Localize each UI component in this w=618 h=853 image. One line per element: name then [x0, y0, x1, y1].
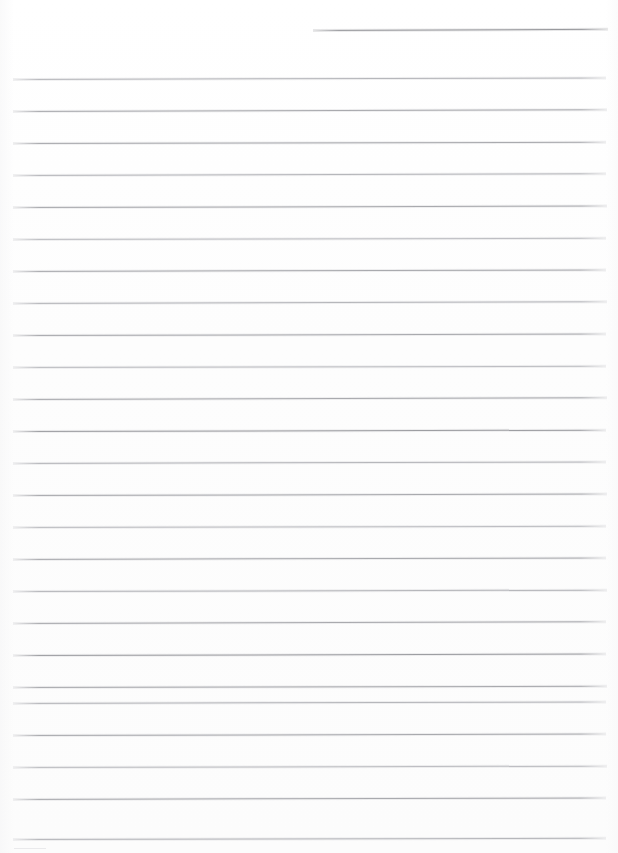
rule-right-fade — [580, 733, 606, 736]
rule-line — [13, 686, 607, 688]
rule-right-fade — [580, 620, 606, 623]
rule-left-fade — [13, 766, 39, 769]
rule-left-fade — [13, 78, 39, 81]
rule-right-fade — [582, 28, 608, 31]
rule-left-fade — [13, 798, 39, 801]
rule-right-fade — [581, 396, 607, 399]
rule-line — [13, 430, 606, 432]
rule-right-fade — [580, 653, 606, 656]
rule-left-fade — [13, 734, 39, 737]
rule-right-fade — [580, 700, 606, 703]
rule-line — [13, 173, 606, 176]
scan-artifact — [14, 848, 46, 849]
rule-left-fade — [13, 590, 39, 593]
rule-left-fade — [13, 838, 39, 841]
rule-left-fade — [13, 702, 39, 705]
rule-right-fade — [581, 765, 607, 768]
rule-line — [13, 701, 606, 704]
rule-left-fade — [13, 270, 39, 273]
rule-right-fade — [581, 493, 607, 496]
rule-right-fade — [580, 525, 606, 528]
rule-right-fade — [581, 205, 607, 208]
rule-right-fade — [580, 837, 606, 840]
rule-line — [13, 734, 606, 736]
scanned-page — [0, 0, 618, 853]
rule-left-fade — [13, 526, 39, 529]
rule-left-fade — [13, 174, 39, 177]
rule-line — [13, 557, 606, 560]
rule-line — [13, 334, 606, 336]
rule-left-fade — [13, 334, 39, 337]
rule-right-fade — [580, 268, 606, 271]
rule-left-fade — [13, 430, 39, 433]
rule-left-fade — [313, 29, 339, 32]
rule-line — [13, 366, 606, 368]
rule-left-fade — [13, 622, 39, 625]
rule-line — [13, 142, 606, 144]
rule-right-fade — [581, 300, 607, 303]
rule-left-fade — [13, 558, 39, 561]
rule-line — [13, 77, 606, 80]
rule-right-fade — [580, 172, 606, 175]
rule-line — [13, 238, 606, 240]
rule-right-fade — [581, 685, 607, 688]
rule-right-fade — [580, 796, 606, 799]
rule-left-fade — [13, 462, 39, 465]
rule-left-fade — [13, 302, 39, 305]
rule-line — [13, 654, 606, 656]
rule-right-fade — [580, 237, 606, 240]
rule-line — [13, 526, 606, 528]
rule-line — [13, 109, 607, 112]
rule-left-fade — [13, 110, 39, 113]
scan-edge-shading — [0, 0, 618, 853]
rule-line — [13, 397, 607, 400]
rule-right-fade — [580, 76, 606, 79]
rule-left-fade — [13, 142, 39, 145]
rule-line — [13, 494, 607, 496]
rule-left-fade — [13, 494, 39, 497]
rule-right-fade — [580, 460, 606, 463]
rule-line — [13, 461, 606, 464]
rule-right-fade — [580, 333, 606, 336]
rule-line — [13, 766, 607, 768]
rule-line — [13, 269, 606, 272]
rule-line — [13, 621, 606, 624]
rule-right-fade — [580, 429, 606, 432]
rule-line — [13, 838, 606, 840]
rule-line — [13, 206, 607, 208]
rule-right-fade — [580, 556, 606, 559]
rule-left-fade — [13, 206, 39, 209]
rule-line — [13, 590, 607, 592]
rule-left-fade — [13, 366, 39, 369]
rule-left-fade — [13, 238, 39, 241]
rule-left-fade — [13, 654, 39, 657]
rule-line — [13, 301, 607, 304]
header-rule-line — [313, 29, 608, 31]
paper-background — [0, 0, 618, 853]
rule-right-fade — [581, 108, 607, 111]
rule-right-fade — [580, 365, 606, 368]
rule-left-fade — [13, 398, 39, 401]
rule-right-fade — [581, 589, 607, 592]
rule-right-fade — [580, 141, 606, 144]
rule-left-fade — [13, 686, 39, 689]
rule-line — [13, 797, 606, 800]
